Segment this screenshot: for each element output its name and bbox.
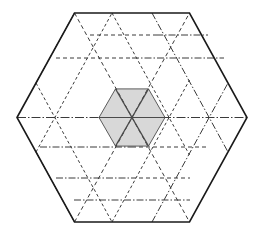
hexagon-lattice-figure [0,0,264,235]
diagram-canvas [0,0,264,235]
